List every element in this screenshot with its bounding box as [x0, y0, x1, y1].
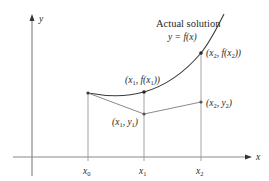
x-axis: x — [13, 152, 261, 162]
x-axis-label: x — [255, 152, 261, 162]
point-x1-fx1 — [142, 90, 146, 94]
euler-approximation-segments — [88, 93, 201, 114]
point-x2-fx2 — [199, 51, 203, 55]
x-axis-arrow-icon — [245, 155, 252, 160]
vertical-guides — [88, 53, 201, 161]
point-x2-y2 — [199, 100, 202, 103]
y-axis-label: y — [38, 14, 44, 24]
y-axis: y — [30, 14, 45, 176]
tick-label-x0: x0 — [82, 166, 90, 177]
tick-labels: x0 x1 x2 — [82, 166, 203, 177]
point-x0-y0 — [86, 91, 89, 94]
euler-method-diagram: y x x0 x1 x2 Actual solution y = f(x) (x… — [0, 0, 269, 181]
tick-label-x2: x2 — [195, 166, 203, 177]
label-x1-y1: (x1, y1) — [112, 117, 138, 128]
tick-label-x1: x1 — [138, 166, 146, 177]
curve-label-line2: y = f(x) — [167, 32, 197, 43]
curve-label-line1: Actual solution — [156, 18, 221, 29]
label-x2-y2: (x2, y2) — [206, 98, 232, 109]
label-x2-fx2: (x2, f(x2)) — [206, 48, 241, 59]
point-x1-y1 — [142, 112, 145, 115]
label-x1-fx1: (x1, f(x1)) — [125, 75, 160, 86]
y-axis-arrow-icon — [30, 14, 35, 21]
